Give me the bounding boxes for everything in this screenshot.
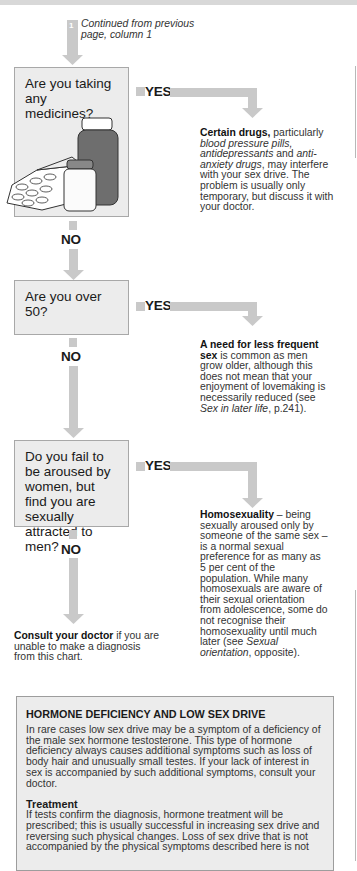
yes-arrow-head (242, 108, 263, 119)
no-arrow-stem (69, 249, 78, 272)
continuation-arrow-head (62, 55, 83, 66)
yes-arrow-horizontal (170, 462, 254, 471)
yes-label: YES (145, 298, 171, 313)
question-text: Are you over 50? (25, 289, 102, 319)
yes-arrow-vertical (248, 462, 257, 500)
no-arrow-head (63, 614, 84, 625)
yes-arrow-stub (136, 87, 145, 96)
yes-arrow-head (242, 498, 263, 509)
adjacent-column-rule-bottom (355, 590, 356, 861)
treatment-body: If tests confirm the diagnosis, hormone … (26, 810, 325, 853)
question-box-attraction: Do you fail to be aroused by women, but … (14, 440, 129, 527)
answer-less-frequent-sex: A need for less frequent sex is common a… (200, 340, 330, 414)
yes-arrow-head (242, 316, 263, 327)
yes-label: YES (145, 84, 171, 99)
sidebox-title: HORMONE DEFICIENCY AND LOW SEX DRIVE (26, 708, 325, 720)
adjacent-column-rule-top (355, 66, 356, 158)
no-arrow-stub (69, 338, 77, 347)
question-text: Do you fail to be aroused by women, but … (25, 449, 111, 554)
question-box-over-50: Are you over 50? (14, 280, 129, 335)
continued-from-text: Continued from previous page, column 1 (81, 19, 201, 40)
no-label: NO (61, 542, 81, 557)
no-arrow-stub (69, 221, 77, 230)
yes-arrow-stub (136, 302, 145, 311)
sidebox-body: In rare cases low sex drive may be a sym… (26, 725, 325, 789)
yes-arrow-horizontal (170, 302, 254, 311)
answer-certain-drugs: Certain drugs, particularly blood pressu… (200, 128, 340, 213)
no-arrow-stem (69, 366, 78, 430)
page-top-strip (0, 0, 357, 5)
yes-label: YES (145, 458, 171, 473)
yes-arrow-vertical (248, 88, 257, 110)
consult-doctor-text: Consult your doctor if you are unable to… (14, 631, 164, 663)
continuation-marker-number: 1 (69, 21, 73, 30)
no-arrow-head (63, 428, 84, 439)
no-label: NO (61, 232, 81, 247)
no-label: NO (61, 349, 81, 364)
no-arrow-stub (69, 530, 77, 539)
hormone-deficiency-sidebox: HORMONE DEFICIENCY AND LOW SEX DRIVE In … (16, 696, 334, 871)
medicine-bottles-illustration (2, 115, 128, 215)
yes-arrow-horizontal (170, 88, 254, 97)
yes-arrow-stub (136, 462, 145, 471)
answer-homosexuality: Homosexuality – being sexually aroused o… (200, 510, 328, 658)
no-arrow-stem (69, 558, 78, 616)
